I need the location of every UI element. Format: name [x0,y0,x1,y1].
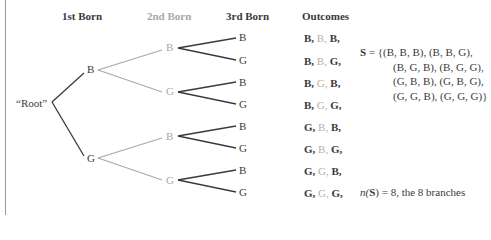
level2-branches [178,38,236,192]
sample-space-count: n(S) = 8, the 8 branches [360,186,465,198]
outcome-first: B, [304,55,314,67]
count-prefix: n( [360,186,369,198]
outcome-row: G, G, B, [304,165,342,177]
outcome-first: G, [304,165,315,177]
node-1st-b: B [87,64,94,75]
sample-space-line: (B, G, B), (B, G, G), [360,60,488,75]
outcome-second: B, [317,32,327,44]
leaf-b-1: B [239,32,246,43]
outcome-third: B, [331,121,341,133]
outcome-second: G, [318,187,329,199]
leaf-b-4: B [239,165,246,176]
outcome-row: G, G, G, [304,187,343,199]
outcome-second: G, [318,165,329,177]
outcome-first: B, [304,99,314,111]
sample-space-text: {(B, B, B), (B, B, G), [378,46,473,58]
sample-space: S = {(B, B, B), (B, B, G), (B, G, B), (B… [360,45,488,103]
leaf-g-1: G [239,55,247,66]
node-2nd-g-2: G [166,175,174,186]
outcome-row: B, B, B, [304,32,340,44]
outcome-third: B, [330,32,340,44]
outcome-row: G, B, G, [304,143,342,155]
outcome-row: G, B, B, [304,121,341,133]
outcome-row: B, B, G, [304,55,341,67]
outcome-third: G, [330,55,341,67]
outcome-first: B, [304,77,314,89]
outcome-second: B, [317,55,327,67]
outcome-second: B, [318,143,328,155]
leaf-b-2: B [239,77,246,88]
outcome-second: G, [317,77,328,89]
outcome-third: B, [330,77,340,89]
outcome-third: G, [331,143,342,155]
sample-space-line: S = {(B, B, B), (B, B, G), [360,45,488,60]
outcome-first: G, [304,121,315,133]
count-suffix: ) = 8, the 8 branches [375,186,465,198]
root-label: “Root” [16,97,47,109]
equals-sign: = [366,46,378,58]
outcome-second: G, [317,99,328,111]
outcome-third: B, [332,165,342,177]
sample-space-line: (G, B, B), (G, B, G), [360,74,488,89]
outcome-first: B, [304,32,314,44]
level1-branches [98,50,162,180]
outcome-first: G, [304,187,315,199]
outcome-third: G, [330,99,341,111]
outcome-third: G, [332,187,343,199]
node-2nd-b-1: B [166,42,173,53]
root-branches [52,73,84,156]
leaf-g-2: G [239,99,247,110]
node-2nd-g-1: G [166,86,174,97]
outcome-second: B, [318,121,328,133]
sample-space-line: (G, G, B), (G, G, G)} [360,89,488,104]
outcome-first: G, [304,143,315,155]
leaf-g-3: G [239,143,247,154]
node-1st-g: G [87,153,95,164]
outcome-row: B, G, G, [304,99,342,111]
leaf-b-3: B [239,121,246,132]
node-2nd-b-2: B [166,131,173,142]
leaf-g-4: G [239,187,247,198]
outcome-row: B, G, B, [304,77,340,89]
